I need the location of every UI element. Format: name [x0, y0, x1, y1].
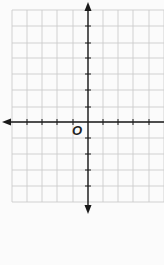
axes — [2, 2, 164, 214]
origin-label: O — [72, 124, 82, 137]
arrow-left-icon — [2, 119, 11, 126]
arrow-up-icon — [85, 2, 92, 11]
arrow-down-icon — [85, 205, 92, 214]
